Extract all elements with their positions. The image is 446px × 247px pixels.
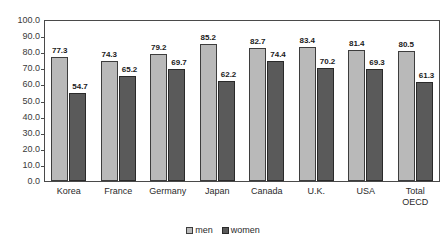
legend-swatch-icon bbox=[186, 227, 193, 234]
x-tick-label: Canada bbox=[242, 186, 292, 226]
bar-men: 79.2 bbox=[150, 54, 167, 182]
bar-men: 83.4 bbox=[299, 47, 316, 181]
bar-chart: 100.090.080.070.060.050.040.030.020.010.… bbox=[0, 0, 446, 247]
bar-group: 79.269.7 bbox=[143, 20, 193, 181]
chart-screenshot: 100.090.080.070.060.050.040.030.020.010.… bbox=[0, 0, 446, 247]
bar-women: 70.2 bbox=[317, 68, 334, 181]
y-tick-label: 0.0 bbox=[27, 177, 40, 186]
x-tick-label: Total OECD bbox=[391, 186, 441, 226]
y-axis: 100.090.080.070.060.050.040.030.020.010.… bbox=[0, 16, 42, 182]
bar-value-label: 80.5 bbox=[398, 41, 414, 49]
y-tick-label: 70.0 bbox=[22, 64, 40, 73]
bar-value-label: 69.3 bbox=[369, 59, 385, 67]
y-tick-label: 50.0 bbox=[22, 96, 40, 105]
bar-value-label: 65.2 bbox=[122, 66, 138, 74]
bar-value-label: 77.3 bbox=[52, 47, 68, 55]
x-tick-label: U.K. bbox=[292, 186, 342, 226]
chart-legend: menwomen bbox=[0, 226, 446, 235]
bar-group: 81.469.3 bbox=[341, 20, 391, 181]
x-tick-label: France bbox=[94, 186, 144, 226]
bar-value-label: 74.3 bbox=[101, 51, 117, 59]
y-tick-label: 40.0 bbox=[22, 112, 40, 121]
legend-label: men bbox=[195, 226, 213, 235]
bar-women: 61.3 bbox=[416, 82, 433, 181]
x-tick-label: USA bbox=[341, 186, 391, 226]
legend-item-women: women bbox=[222, 226, 260, 235]
bar-group: 80.561.3 bbox=[391, 20, 441, 181]
bar-value-label: 74.4 bbox=[270, 51, 286, 59]
bar-value-label: 62.2 bbox=[221, 71, 237, 79]
bar-value-label: 79.2 bbox=[151, 44, 167, 52]
bars-layer: 77.354.774.365.279.269.785.262.282.774.4… bbox=[44, 20, 440, 181]
bar-group: 83.470.2 bbox=[292, 20, 342, 181]
y-tick-label: 20.0 bbox=[22, 144, 40, 153]
bar-women: 65.2 bbox=[119, 76, 136, 181]
x-tick-label: Germany bbox=[143, 186, 193, 226]
bar-value-label: 70.2 bbox=[320, 58, 336, 66]
y-tick-label: 90.0 bbox=[22, 32, 40, 41]
x-axis: KoreaFranceGermanyJapanCanadaU.K.USATota… bbox=[44, 186, 440, 226]
legend-label: women bbox=[231, 226, 260, 235]
y-tick-label: 10.0 bbox=[22, 160, 40, 169]
x-tick-label: Japan bbox=[193, 186, 243, 226]
y-tick-label: 30.0 bbox=[22, 128, 40, 137]
bar-women: 54.7 bbox=[69, 93, 86, 181]
bar-men: 81.4 bbox=[348, 50, 365, 181]
y-tick-label: 100.0 bbox=[17, 16, 40, 25]
bar-men: 85.2 bbox=[200, 44, 217, 181]
bar-women: 74.4 bbox=[267, 61, 284, 181]
legend-item-men: men bbox=[186, 226, 213, 235]
bar-group: 85.262.2 bbox=[193, 20, 243, 181]
y-tick-label: 60.0 bbox=[22, 80, 40, 89]
bar-men: 82.7 bbox=[249, 48, 266, 181]
x-tick-label: Korea bbox=[44, 186, 94, 226]
bar-value-label: 85.2 bbox=[200, 34, 216, 42]
bar-value-label: 83.4 bbox=[299, 37, 315, 45]
bar-value-label: 82.7 bbox=[250, 38, 266, 46]
bar-women: 62.2 bbox=[218, 81, 235, 181]
bar-women: 69.7 bbox=[168, 69, 185, 181]
bar-group: 74.365.2 bbox=[94, 20, 144, 181]
y-tick-label: 80.0 bbox=[22, 48, 40, 57]
bar-group: 82.774.4 bbox=[242, 20, 292, 181]
bar-men: 80.5 bbox=[398, 51, 415, 181]
bar-women: 69.3 bbox=[366, 69, 383, 181]
bar-men: 74.3 bbox=[101, 61, 118, 181]
bar-value-label: 81.4 bbox=[349, 40, 365, 48]
bar-value-label: 54.7 bbox=[72, 83, 88, 91]
bar-group: 77.354.7 bbox=[44, 20, 94, 181]
bar-value-label: 69.7 bbox=[171, 59, 187, 67]
bar-value-label: 61.3 bbox=[419, 72, 435, 80]
legend-swatch-icon bbox=[222, 227, 229, 234]
bar-men: 77.3 bbox=[51, 57, 68, 181]
